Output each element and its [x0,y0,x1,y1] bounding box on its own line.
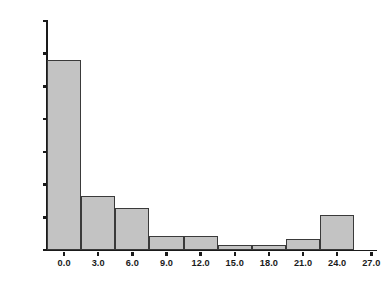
x-axis-tick-label: 27.0 [362,258,380,268]
histogram-bar [81,196,115,250]
x-axis-tick-mark [165,252,168,256]
x-axis-tick-mark [336,252,339,256]
x-axis-tick-label: 15.0 [226,258,244,268]
x-axis-tick-label: 9.0 [160,258,173,268]
plot-area [47,21,377,250]
histogram-bar [218,245,252,250]
x-axis-tick-mark [199,252,202,256]
x-axis-tick-label: 21.0 [294,258,312,268]
x-axis-tick-label: 24.0 [328,258,346,268]
x-axis-tick-mark [268,252,271,256]
x-axis-tick-label: 0.0 [58,258,71,268]
x-axis-tick-label: 3.0 [92,258,105,268]
histogram-chart: 02000400060008000100001200014000 0.03.06… [0,0,387,283]
histogram-bar [252,245,286,250]
x-axis-tick-mark [97,252,100,256]
x-axis-tick-mark [63,252,66,256]
x-axis-tick-label: 12.0 [191,258,209,268]
x-axis-tick-label: 18.0 [260,258,278,268]
histogram-bar [115,208,149,250]
histogram-bar [286,239,320,250]
histogram-bar [184,236,218,250]
histogram-bar [149,236,183,250]
x-axis-tick-mark [370,252,373,256]
x-axis-tick-mark [302,252,305,256]
histogram-bar [47,60,81,250]
x-axis-tick-label: 6.0 [126,258,139,268]
x-axis-tick-mark [131,252,134,256]
histogram-bar [320,215,354,250]
x-axis-tick-mark [234,252,237,256]
